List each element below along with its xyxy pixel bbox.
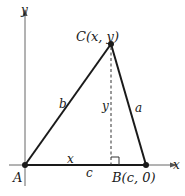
side-c-label: c — [86, 167, 93, 179]
side-b-label: b — [59, 98, 67, 110]
base-part-label: x — [67, 153, 74, 165]
side-b — [25, 44, 111, 165]
height-label: y — [102, 100, 109, 112]
right-angle-marker — [111, 157, 119, 165]
point-b-label: B(c, 0) — [112, 171, 156, 184]
point-b — [143, 162, 149, 168]
point-a-label: A — [13, 171, 22, 184]
point-a — [22, 162, 28, 168]
y-axis-label: y — [21, 4, 28, 16]
side-a-label: a — [135, 102, 142, 114]
triangle-diagram: y x C(x, y) A B(c, 0) b a c y x — [0, 0, 185, 196]
x-axis-label: x — [173, 159, 180, 171]
point-c-label: C(x, y) — [76, 30, 119, 43]
